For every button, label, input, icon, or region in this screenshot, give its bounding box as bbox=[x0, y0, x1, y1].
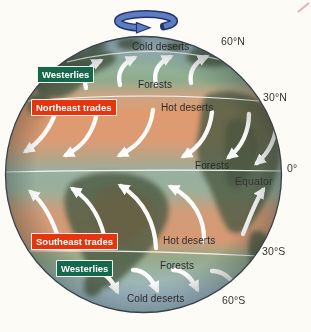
label-hot-deserts-south: Hot deserts bbox=[163, 236, 215, 247]
label-forests-south: Forests bbox=[160, 261, 194, 272]
latitude-label-equator: Equator bbox=[235, 176, 272, 187]
label-forests-north: Forests bbox=[138, 80, 172, 91]
landmass-asia-edge bbox=[244, 52, 270, 78]
wind-belt-label-westerlies-north: Westerlies bbox=[37, 66, 94, 83]
latitude-label-30n: 30°N bbox=[263, 92, 287, 103]
wind-belt-label-southeast-trades: Southeast trades bbox=[31, 233, 118, 250]
label-cold-deserts-south: Cold deserts bbox=[127, 294, 184, 305]
label-cold-deserts-north: Cold deserts bbox=[132, 42, 189, 53]
label-forests-equator: Forests bbox=[195, 161, 229, 172]
wind-belt-label-northeast-trades: Northeast trades bbox=[31, 99, 117, 116]
scan-artifact bbox=[298, 3, 309, 12]
latitude-label-60n: 60°N bbox=[221, 36, 245, 47]
latitude-label-60s: 60°S bbox=[222, 295, 245, 306]
wind-belt-label-westerlies-south: Westerlies bbox=[56, 260, 113, 277]
latitude-label-0deg: 0° bbox=[287, 163, 297, 174]
earth-rotation-arrow-icon bbox=[118, 14, 174, 33]
latitude-label-30s: 30°S bbox=[262, 246, 285, 257]
atmospheric-circulation-diagram: Cold deserts Forests Hot deserts Forests… bbox=[0, 0, 311, 332]
label-hot-deserts-north: Hot deserts bbox=[161, 103, 213, 114]
